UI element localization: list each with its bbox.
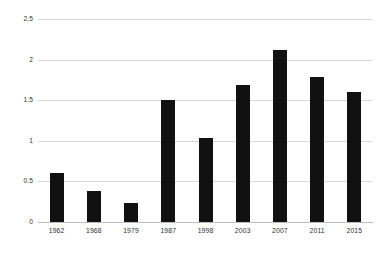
bar-2003 — [236, 85, 250, 222]
x-tick-label-2007: 2007 — [272, 226, 288, 235]
bar-1998 — [199, 138, 213, 222]
gridline-zero-axis — [38, 222, 373, 223]
bar-2011 — [310, 77, 324, 222]
plot-area — [38, 19, 373, 222]
y-tick-label: 2.5 — [0, 15, 33, 22]
x-tick-label-1968: 1968 — [86, 226, 102, 235]
y-tick-label: 0 — [0, 218, 33, 225]
x-axis-tick-labels: 1962 1968 1979 1987 1998 2003 2007 2011 … — [38, 226, 373, 240]
y-tick-label: 0.5 — [0, 177, 33, 184]
bar-1968 — [87, 191, 101, 222]
x-tick-label-2015: 2015 — [347, 226, 363, 235]
bar-1962 — [50, 173, 64, 222]
y-tick-label: 1 — [0, 137, 33, 144]
x-tick-label-2011: 2011 — [310, 226, 325, 235]
bar-1987 — [161, 100, 175, 222]
x-tick-label-2003: 2003 — [235, 226, 251, 235]
x-tick-label-1998: 1998 — [198, 226, 214, 235]
y-tick-label: 1.5 — [0, 96, 33, 103]
y-tick-label: 2 — [0, 56, 33, 63]
bar-chart: 2.5 2 1.5 1 0.5 0 1962 1968 1979 1987 — [0, 0, 381, 257]
y-axis-tick-labels: 2.5 2 1.5 1 0.5 0 — [0, 19, 33, 222]
bars-layer — [38, 19, 373, 222]
bar-2015 — [347, 92, 361, 222]
x-tick-label-1987: 1987 — [160, 226, 176, 235]
x-tick-label-1979: 1979 — [123, 226, 139, 235]
x-tick-label-1962: 1962 — [49, 226, 65, 235]
bar-2007 — [273, 50, 287, 222]
bar-1979 — [124, 203, 138, 222]
